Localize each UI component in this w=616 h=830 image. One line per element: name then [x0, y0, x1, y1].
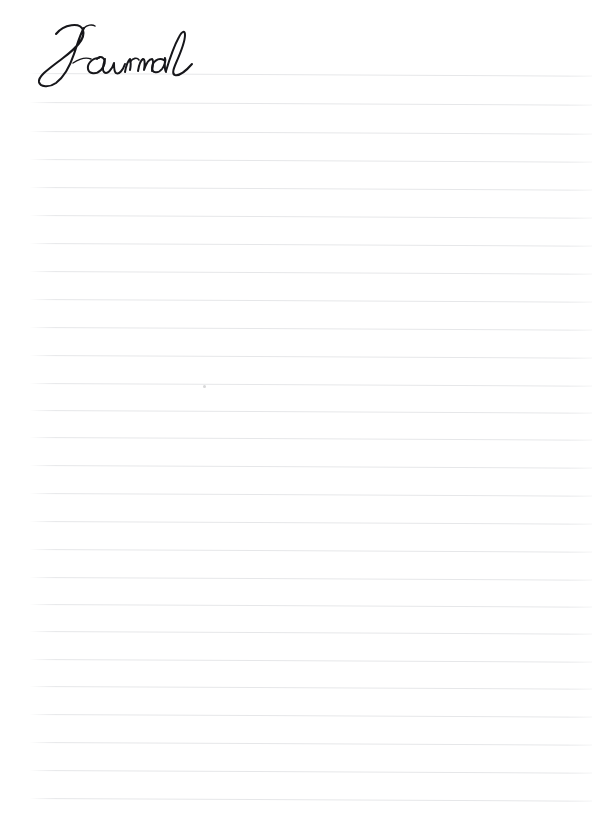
writing-line: [30, 798, 592, 802]
journal-page: Journal: [0, 0, 616, 830]
writing-line: [30, 604, 592, 608]
writing-line: [30, 102, 592, 106]
writing-line: [30, 131, 592, 135]
writing-line: [30, 521, 592, 525]
writing-line: [30, 465, 592, 469]
ruled-lines-layer: [0, 0, 616, 830]
writing-line: [30, 437, 592, 441]
writing-line: [30, 577, 592, 581]
writing-line: [30, 383, 592, 387]
writing-line: [30, 659, 592, 663]
writing-line: [30, 355, 592, 359]
writing-line: [30, 742, 592, 746]
writing-line: [30, 714, 592, 718]
writing-line: [30, 243, 592, 247]
journal-script-title-icon: [26, 18, 201, 90]
writing-line: [30, 631, 592, 635]
writing-line: [30, 686, 592, 690]
writing-line: [30, 549, 592, 553]
writing-line: [30, 159, 592, 163]
paper-speck: [203, 385, 206, 388]
writing-line: [30, 215, 592, 219]
writing-line: [30, 493, 592, 497]
writing-line: [30, 770, 592, 774]
writing-line: [30, 410, 592, 414]
writing-line: [30, 271, 592, 275]
writing-line: [30, 327, 592, 331]
page-title: Journal: [26, 18, 256, 98]
writing-line: [30, 299, 592, 303]
writing-line: [30, 187, 592, 191]
